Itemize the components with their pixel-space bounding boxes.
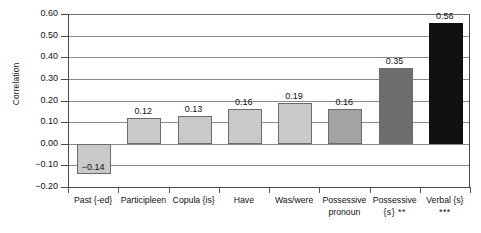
- gridline: [69, 36, 469, 37]
- bar[interactable]: [328, 109, 362, 144]
- gridline: [69, 165, 469, 166]
- y-axis-tick-mark: [61, 122, 68, 123]
- bar-value-label: 0.16: [319, 97, 369, 107]
- gridline: [69, 144, 469, 145]
- y-axis-tick-label: 0.40: [24, 51, 58, 61]
- y-axis-tick-mark: [61, 187, 68, 188]
- bar[interactable]: [429, 23, 463, 144]
- bar-chart: Correlation 0.600.500.400.300.200.100.00…: [0, 0, 481, 233]
- bar-value-label: 0.56: [420, 11, 470, 21]
- bar[interactable]: [127, 118, 161, 144]
- bar-value-label: 0.16: [219, 97, 269, 107]
- y-axis-tick-label: 0.30: [24, 73, 58, 83]
- x-axis-tick-mark: [470, 187, 471, 193]
- y-axis-tick-mark: [61, 79, 68, 80]
- y-axis-tick-mark: [61, 144, 68, 145]
- gridline: [69, 14, 469, 15]
- bar-value-label: 0.35: [370, 56, 420, 66]
- x-axis-tick-mark: [420, 187, 421, 193]
- y-axis-tick-label: 0.10: [24, 116, 58, 126]
- bar-value-label: 0.12: [118, 106, 168, 116]
- y-axis-tick-mark: [61, 14, 68, 15]
- x-axis-tick-mark: [118, 187, 119, 193]
- bar-value-label: 0.13: [169, 104, 219, 114]
- y-axis-tick-label: 0.50: [24, 30, 58, 40]
- x-axis-tick-mark: [219, 187, 220, 193]
- y-axis-tick-mark: [61, 57, 68, 58]
- bar[interactable]: [228, 109, 262, 144]
- bar[interactable]: [379, 68, 413, 144]
- bar-value-label: 0.19: [269, 91, 319, 101]
- y-axis-tick-label: −0.20: [24, 181, 58, 191]
- x-axis-tick-mark: [269, 187, 270, 193]
- bar[interactable]: [178, 116, 212, 144]
- y-axis-tick-mark: [61, 165, 68, 166]
- x-axis-tick-mark: [370, 187, 371, 193]
- bar-value-label: −0.14: [68, 162, 118, 172]
- y-axis-tick-mark: [61, 36, 68, 37]
- y-axis-tick-label: 0.60: [24, 8, 58, 18]
- y-axis-tick-label: −0.10: [24, 159, 58, 169]
- y-axis-tick-mark: [61, 101, 68, 102]
- y-axis-tick-label: 0.20: [24, 95, 58, 105]
- x-axis-tick-mark: [319, 187, 320, 193]
- y-axis-title: Correlation: [11, 24, 21, 144]
- x-axis-category-label: Verbal {s} ***: [416, 195, 474, 218]
- x-axis-tick-mark: [169, 187, 170, 193]
- x-axis-tick-mark: [68, 187, 69, 193]
- y-axis-tick-label: 0.00: [24, 138, 58, 148]
- bar[interactable]: [278, 103, 312, 144]
